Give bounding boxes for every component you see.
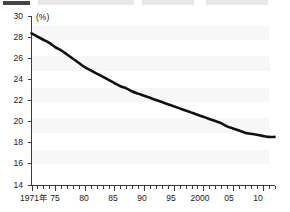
y-tick-label-22: 22 bbox=[3, 96, 23, 105]
y-tick-label-18: 18 bbox=[3, 138, 23, 147]
x-tick-label-10: 10 bbox=[247, 194, 269, 203]
data-series-line bbox=[32, 33, 275, 137]
y-tick-label-28: 28 bbox=[3, 33, 23, 42]
x-tick-marks bbox=[33, 186, 276, 191]
plot-svg bbox=[0, 0, 290, 212]
x-tick-label-90: 90 bbox=[131, 194, 153, 203]
x-tick-label-05: 05 bbox=[218, 194, 240, 203]
x-tick-label-2000: 2000 bbox=[182, 194, 218, 203]
x-tick-label-85: 85 bbox=[102, 194, 124, 203]
x-tick-label-95: 95 bbox=[160, 194, 182, 203]
y-tick-label-24: 24 bbox=[3, 75, 23, 84]
x-tick-label-80: 80 bbox=[73, 194, 95, 203]
y-tick-marks bbox=[28, 17, 32, 186]
axes-group bbox=[32, 17, 275, 186]
y-tick-label-26: 26 bbox=[3, 54, 23, 63]
y-tick-label-30: 30 bbox=[3, 12, 23, 21]
y-tick-label-20: 20 bbox=[3, 117, 23, 126]
y-tick-label-14: 14 bbox=[3, 181, 23, 190]
x-tick-label-75: 75 bbox=[44, 194, 66, 203]
y-tick-label-16: 16 bbox=[3, 159, 23, 168]
chart-figure: (%) 30 28 26 24 22 20 18 16 14 1971年 75 … bbox=[0, 0, 290, 212]
y-axis-unit-label: (%) bbox=[36, 13, 49, 22]
